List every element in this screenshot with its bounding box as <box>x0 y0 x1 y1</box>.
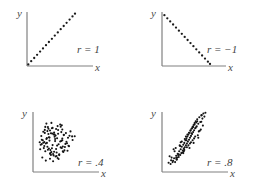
panel-correlation-positive-one: y x r = 1 <box>0 0 129 96</box>
plot-area-r04 <box>0 96 129 192</box>
correlation-annotation: r = .4 <box>78 157 103 168</box>
correlation-annotation: r = .8 <box>207 157 232 168</box>
y-axis-label: y <box>151 108 156 119</box>
data-points-r1 <box>27 13 76 66</box>
panel-correlation-point-four: y x r = .4 <box>0 96 129 192</box>
data-points-r08 <box>168 112 207 165</box>
plot-area-r08 <box>129 96 258 192</box>
plot-area-rneg1 <box>129 0 258 96</box>
x-axis-label: x <box>95 62 100 73</box>
x-axis-label: x <box>230 168 235 179</box>
panel-correlation-point-eight: y x r = .8 <box>129 96 258 192</box>
correlation-annotation: r = 1 <box>77 44 100 55</box>
data-points-rneg1 <box>163 14 211 65</box>
panel-correlation-negative-one: y x r = −1 <box>129 0 258 96</box>
axes-r1 <box>27 12 93 66</box>
y-axis-label: y <box>17 8 22 19</box>
y-axis-label: y <box>22 108 27 119</box>
correlation-figure: y x r = 1 <box>0 0 259 192</box>
x-axis-label: x <box>101 168 106 179</box>
correlation-annotation: r = −1 <box>207 44 237 55</box>
axes-rneg1 <box>162 12 226 66</box>
x-axis-label: x <box>228 62 233 73</box>
data-points-r04 <box>39 122 76 162</box>
y-axis-label: y <box>151 8 156 19</box>
